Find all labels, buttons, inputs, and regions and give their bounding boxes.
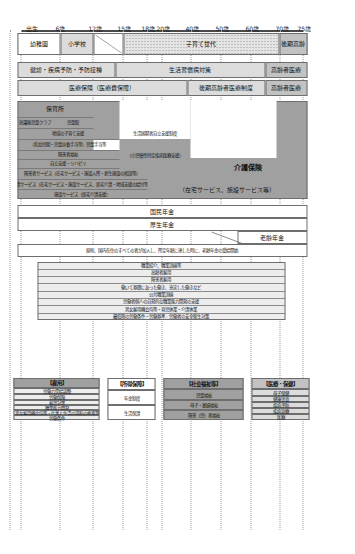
legend-title: 【所得保障】 <box>116 380 146 388</box>
band-elderly-med[interactable]: 高齢者医療 <box>265 62 307 78</box>
band-kindergarten[interactable]: 幼稚園 <box>17 33 60 55</box>
band-childrearing[interactable]: 子育て世代 <box>123 33 279 55</box>
legend-swatch-welfare: 【社会福祉等】 <box>163 378 243 389</box>
legend-item[interactable]: 障害（児）者福祉 <box>163 410 243 420</box>
band-label: 介護保険 <box>233 165 261 172</box>
axis-tick-label: 50歳 <box>215 24 229 33</box>
band-nursery[interactable]: 保育所 <box>17 101 93 118</box>
band-label: 厚生年金 <box>150 221 174 227</box>
band-ltci[interactable]: 介護保険 <box>187 158 307 180</box>
band-label: （在宅サービス、施設サービス等） <box>179 186 275 192</box>
band-label: 子育て世代 <box>186 41 216 47</box>
band-life-support[interactable]: 生活困窮者自立支援制度 <box>119 129 190 139</box>
axis-tick-label: 18歳 <box>141 24 155 33</box>
band-label: 介護サービス（在宅サービス・施設サービス、居宅介護・地域支援の給付等） <box>17 182 147 187</box>
legend-swatch-labour: 【雇用】 <box>13 378 99 388</box>
legend-item[interactable]: 医療 <box>251 414 309 420</box>
axis-tick-label: 60歳 <box>245 24 259 33</box>
band-ltci-sub[interactable]: （在宅サービス、施設サービス等） <box>147 180 307 199</box>
legend-title: 【雇用】 <box>46 379 66 387</box>
band-label: 幼稚園 <box>30 41 48 47</box>
axis-tick-label: 20歳 <box>156 24 170 33</box>
band-work-life-balance[interactable]: 働いて基礎にあった働き、充実した働きなど <box>37 284 285 292</box>
band-public-employment[interactable]: 公共職業訓練 <box>37 292 285 299</box>
legend-item-label: 母子保健 <box>272 390 288 396</box>
legend-item[interactable]: 母子・寡婦福祉 <box>163 400 243 410</box>
legend-item[interactable]: 生活保護 <box>107 405 155 420</box>
axis-tick-label: 70歳 <box>275 24 289 33</box>
band-label: 生活習慣病対策 <box>169 67 211 73</box>
band-label: 施設サービス（居宅介護支援） <box>54 192 110 197</box>
band-afterschool[interactable]: 放課後児童クラブ <box>17 118 53 129</box>
band-old-age-pension[interactable]: 老齢年金 <box>237 231 307 244</box>
diagram-canvas: 出生 6歳 12歳 15歳 18歳 20歳 40歳 50歳 60歳 70歳 75… <box>0 0 355 554</box>
legend-item-label: 年金制度 <box>123 395 139 401</box>
legend-item-label: 労働条件 <box>48 415 64 421</box>
band-rehab[interactable]: 自立支援・リハビリ <box>17 160 119 169</box>
band-label: 障害者福祉 <box>58 153 78 158</box>
band-label: 男女雇用機会均等・育児休業・介護休業 <box>125 307 197 312</box>
band-child-welfare-law[interactable]: （小児慢性特定疾病医療支援） <box>119 151 190 160</box>
band-label: 老齢年金 <box>260 234 284 240</box>
band-disabled-employment[interactable]: 障害者雇用 <box>37 277 285 284</box>
legend-item[interactable]: 年金制度 <box>107 390 155 405</box>
band-handicap[interactable]: 障害者福祉 <box>17 151 119 160</box>
band-label: 自立支援・リハビリ <box>50 162 86 167</box>
band-elderly-employment[interactable]: 高齢者雇用 <box>37 270 285 277</box>
band-label: 労働者個人の自発的な職業能力開発の支援 <box>123 300 199 305</box>
band-label: 障害者雇用 <box>151 278 171 283</box>
footer-separator <box>9 30 10 530</box>
band-foreign-worker[interactable]: 労働者個人の自発的な職業能力開発の支援 <box>37 299 285 306</box>
band-region-child[interactable]: 地域の子育て支援 <box>17 129 119 140</box>
band-label: 保育所 <box>46 106 64 112</box>
legend-item[interactable]: 労働条件 <box>13 415 99 420</box>
band-safety-health[interactable]: 最低限の労働条件・労働基準／労働者の安全衛生対策 <box>37 314 285 320</box>
band-label: 小学校 <box>68 41 86 47</box>
legend-item-label: 医療 <box>276 414 284 420</box>
transition-slash <box>93 33 123 55</box>
legend-swatch-medical: 【医療・保健】 <box>251 378 309 389</box>
band-label: 最低限の労働条件・労働基準／労働者の安全衛生対策 <box>113 315 209 320</box>
axis-tick-label: 出生 <box>25 24 37 33</box>
band-basic-pension[interactable]: 国民年金 <box>17 205 307 218</box>
band-child-allowance[interactable]: （乳幼児期・児童扶養手当等）児童手当等 <box>17 140 119 151</box>
band-label: 職業紹介、職業訓練等 <box>141 263 181 268</box>
band-pension-note[interactable]: 原則、国内在住のすべての者が加入し、所定年齢に達した時に、老齢年金の受給開始 <box>17 244 307 257</box>
band-label: 公共職業訓練 <box>149 293 173 298</box>
band-label: 高齢者雇用 <box>151 271 171 276</box>
band-label: 放課後児童クラブ <box>19 121 51 126</box>
band-equal-treat[interactable]: 男女雇用機会均等・育児休業・介護休業 <box>37 306 285 314</box>
legend-item[interactable]: 母子保健 <box>251 389 309 396</box>
band-support-facility[interactable]: 施設サービス（居宅介護支援） <box>17 190 147 199</box>
band-med-ins-tail[interactable]: 高齢者医療 <box>265 80 307 96</box>
band-label: 高齢者医療 <box>271 67 301 73</box>
band-label: （小児慢性特定疾病医療支援） <box>127 153 183 158</box>
axis-tick-label: 15歳 <box>117 24 131 33</box>
band-lifestyle[interactable]: 生活習慣病対策 <box>115 62 265 78</box>
band-label: 国民年金 <box>150 208 174 214</box>
legend-title: 【社会福祉等】 <box>186 380 221 388</box>
band-label: 働いて基礎にあった働き、充実した働きなど <box>121 285 201 290</box>
legend-item-label: 生活保護 <box>123 410 139 416</box>
band-label: （乳幼児期・児童扶養手当等）児童手当等 <box>30 143 106 148</box>
band-employee-pension[interactable]: 厚生年金 <box>17 218 307 231</box>
diagram-body: 出生 6歳 12歳 15歳 18歳 20歳 40歳 50歳 60歳 70歳 75… <box>0 0 355 554</box>
band-label: 原則、国内在住のすべての者が加入し、所定年齢に達した時に、老齢年金の受給開始 <box>86 248 238 253</box>
band-label: 児童館 <box>67 121 79 126</box>
band-med-ins-main[interactable]: 医療保険（医療費保障） <box>17 80 187 96</box>
axis-tick-label: 12歳 <box>88 24 102 33</box>
band-svc-home[interactable]: 介護サービス（在宅サービス・施設サービス、居宅介護・地域支援の給付等） <box>17 180 147 190</box>
axis-tick-label: 40歳 <box>185 24 199 33</box>
band-svc-disabled[interactable]: 障害者サービス（在宅サービス・施設入所・更生施設の相談等） <box>17 169 147 180</box>
band-job-placement[interactable]: 職業紹介、職業訓練等 <box>37 262 285 270</box>
legend-item-label: 障害（児）者福祉 <box>187 412 219 418</box>
pension-transition-slash <box>209 231 245 245</box>
band-label: 地域の子育て支援 <box>52 132 84 137</box>
band-checkup[interactable]: 健診・疾病予防・予防接種 <box>17 62 115 78</box>
band-label: 高齢者医療 <box>271 85 301 91</box>
band-late-elderly[interactable]: 後期高齢 <box>279 33 307 55</box>
band-elementary[interactable]: 小学校 <box>60 33 93 55</box>
band-jidokan[interactable]: 児童館 <box>53 118 93 129</box>
legend-item[interactable]: 児童福祉 <box>163 389 243 400</box>
band-med-ins-old[interactable]: 後期高齢者医療制度 <box>187 80 265 96</box>
